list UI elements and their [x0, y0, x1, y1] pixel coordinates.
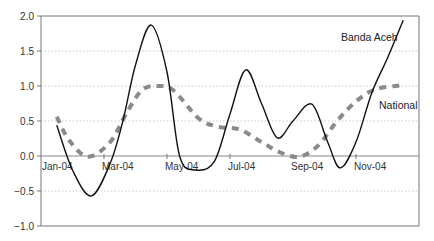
x-tick-label: Sep-04: [291, 161, 324, 172]
national-label: National: [379, 99, 418, 111]
y-tick-label: 0.5: [20, 116, 34, 127]
y-tick-label: 2.0: [20, 11, 34, 22]
y-tick-label: −0.5: [14, 186, 34, 197]
banda-aceh-label: Banda Aceh: [341, 31, 398, 43]
y-tick-label: 1.5: [20, 46, 34, 57]
x-tick-label: Jul-04: [228, 161, 256, 172]
line-chart: 2.01.51.00.50.0−0.5−1.0 Jan-04Mar-04May-…: [0, 0, 434, 241]
x-tick-label: Nov-04: [354, 161, 387, 172]
y-axis-ticks: 2.01.51.00.50.0−0.5−1.0: [14, 11, 41, 232]
y-tick-label: 1.0: [20, 81, 34, 92]
y-tick-label: −1.0: [14, 221, 34, 232]
x-tick-label: Jan-04: [42, 161, 73, 172]
y-tick-label: 0.0: [20, 151, 34, 162]
